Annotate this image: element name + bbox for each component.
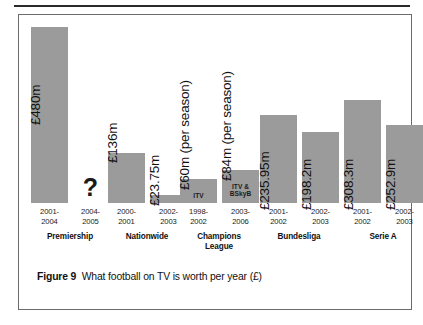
year-line-1: 2003- xyxy=(231,207,250,216)
group-label-line-1: Champions xyxy=(197,232,241,241)
inbar-label-itv: ITV xyxy=(180,192,217,199)
year-line-2: 2002 xyxy=(354,217,371,226)
year-line-1: 2002- xyxy=(395,207,414,216)
bar-value-label-champions-league-2003-2006: £84m (per season) xyxy=(219,71,234,181)
inbar-line-2: BSkyB xyxy=(230,190,251,197)
bar-value-label-champions-league-1998-2002: £60m (per season) xyxy=(177,80,192,190)
year-line-1: 2001- xyxy=(353,207,372,216)
group-label-bundesliga: Bundesliga xyxy=(252,232,346,242)
year-label-bundesliga-2002-2003: 2002- 2003 xyxy=(297,207,344,227)
year-label-serie-a-2001-2002: 2001- 2002 xyxy=(339,207,386,227)
year-line-2: 2002 xyxy=(190,217,207,226)
year-line-1: 1998- xyxy=(189,207,208,216)
year-label-bundesliga-2001-2002: 2001- 2002 xyxy=(255,207,302,227)
bar-value-label-nationwide-2002-2003: £23.75m xyxy=(147,155,162,206)
year-line-2: 2006 xyxy=(232,217,249,226)
year-label-serie-a-2002-2003: 2002- 2003 xyxy=(381,207,423,227)
year-line-2: 2001 xyxy=(118,217,135,226)
bar-value-label-serie-a-2002-2003: £252.9m xyxy=(383,159,398,210)
figure-caption-text: What football on TV is worth per year (£… xyxy=(82,271,262,282)
year-label-premiership-2001-2004: 2001- 2004 xyxy=(26,207,73,227)
top-horizontal-rule xyxy=(14,5,410,7)
bar-value-label-premiership-2001-2004: £480m xyxy=(28,85,43,125)
year-line-2: 2003 xyxy=(396,217,413,226)
year-label-nationwide-2000-2001: 2000- 2001 xyxy=(103,207,150,227)
inbar-label-itv-and-bskyb: ITV & BSkyB xyxy=(222,183,259,198)
bar-value-label-serie-a-2001-2002: £308.3m xyxy=(341,159,356,210)
year-line-2: 2004 xyxy=(41,217,58,226)
figure-caption: Figure 9 What football on TV is worth pe… xyxy=(37,271,397,282)
inbar-line-1: ITV & xyxy=(232,183,249,190)
year-line-1: 2000- xyxy=(117,207,136,216)
bar-value-label-bundesliga-2001-2002: £235.95m xyxy=(257,152,272,210)
bar-value-label-bundesliga-2002-2003: £198.2m xyxy=(299,159,314,210)
figure-frame: £480m ? 2001- 2004 2004- 2005 Premiershi… xyxy=(18,14,412,310)
year-line-2: 2005 xyxy=(82,217,99,226)
bar-value-label-premiership-2004-2005: ? xyxy=(72,175,109,200)
group-label-serie-a: Serie A xyxy=(336,232,423,242)
group-label-line-2: League xyxy=(205,242,233,251)
year-line-1: 2002- xyxy=(311,207,330,216)
year-line-2: 2003 xyxy=(312,217,329,226)
year-label-champions-league-1998-2002: 1998- 2002 xyxy=(175,207,222,227)
figure-page: £480m ? 2001- 2004 2004- 2005 Premiershi… xyxy=(0,0,423,325)
year-line-1: 2001- xyxy=(40,207,59,216)
figure-caption-number: Figure 9 xyxy=(37,271,76,282)
year-line-1: 2004- xyxy=(81,207,100,216)
year-line-1: 2001- xyxy=(269,207,288,216)
year-line-2: 2002 xyxy=(270,217,287,226)
bar-chart-plot-area: £480m ? 2001- 2004 2004- 2005 Premiershi… xyxy=(19,15,413,265)
bar-value-label-nationwide-2000-2001: £136m xyxy=(105,123,120,163)
